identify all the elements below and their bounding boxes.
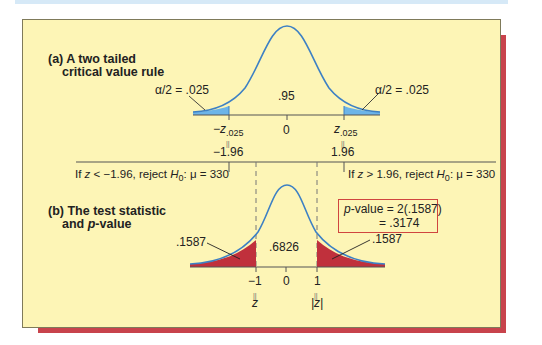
panel-b-tick-right-label: 1 [314, 275, 321, 288]
rule-text: If [348, 168, 358, 180]
panel-b-right-tail-label: .1587 [372, 233, 402, 246]
panel-a-tick-right-label: z.025 [334, 123, 358, 140]
left-rejection-rule: If z < −1.96, reject H0: μ = 330 [75, 168, 229, 185]
panel-a-tick-center-label: 0 [283, 124, 290, 137]
rule-hypothesis: H [437, 168, 445, 180]
rule-text: > 1.96, reject [363, 168, 436, 180]
panel-a-value-left: −1.96 [213, 146, 243, 159]
pvalue-line1: p-value = 2(.1587) [344, 203, 442, 216]
title-text: and [62, 217, 88, 231]
rule-hypothesis: H [170, 168, 178, 180]
panel-a-left-tail [193, 106, 229, 115]
panel-a-left-tail-label: α/2 = .025 [155, 84, 209, 97]
pvalue-p: p [344, 202, 351, 216]
panel-a-left-pointer [189, 96, 205, 110]
rule-text: : μ = 330 [184, 168, 229, 180]
panel-b-abs-z-label: |z| [311, 297, 323, 310]
panel-b-z-label: z [252, 297, 258, 310]
panel-a-right-tail [344, 106, 380, 115]
panel-b-left-pointer [207, 243, 240, 259]
rule-text: If [75, 168, 85, 180]
right-rejection-rule: If z > 1.96, reject H0: μ = 330 [348, 168, 495, 185]
rule-text: : μ = 330 [450, 168, 495, 180]
panel-b-tick-left-label: −1 [248, 275, 262, 288]
neg-z-symbol: −z [213, 122, 226, 136]
rule-text: < −1.96, reject [90, 168, 170, 180]
panel-b-tick-center-label: 0 [283, 275, 290, 288]
panel-b-title-line2: and p-value [62, 218, 131, 231]
title-text: -value [95, 217, 131, 231]
panel-b-center-label: .6826 [269, 241, 299, 254]
pvalue-text: -value = 2(.1587) [351, 202, 442, 216]
panel-b-left-tail-label: .1587 [176, 236, 206, 249]
panel-a-title-line2: critical value rule [62, 66, 164, 79]
panel-b-right-pointer [332, 240, 370, 259]
panel-a-center-label: .95 [278, 90, 295, 103]
panel-a-right-tail-label: α/2 = .025 [375, 84, 429, 97]
panel-a-value-right: 1.96 [331, 146, 354, 159]
pvalue-line2: = .3174 [379, 217, 419, 230]
